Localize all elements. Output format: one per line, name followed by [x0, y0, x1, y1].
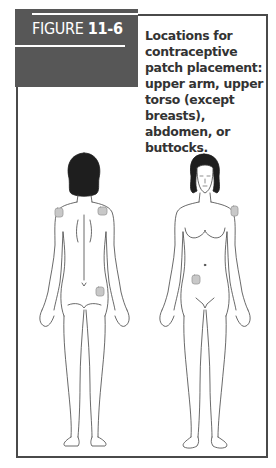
front-feet	[183, 437, 227, 448]
back-feet	[64, 437, 106, 446]
back-spine	[77, 215, 92, 286]
front-pelvis	[196, 298, 214, 308]
back-waist-hips	[61, 232, 108, 316]
back-torso-outline	[42, 202, 127, 310]
front-hands	[160, 310, 250, 326]
front-navel	[204, 264, 206, 266]
back-legs	[64, 310, 105, 437]
patch-front-abdomen	[192, 275, 200, 284]
back-hair	[68, 153, 100, 196]
front-waist-hips	[181, 232, 229, 316]
patch-back-upper-torso	[98, 207, 107, 215]
back-buttocks	[68, 304, 101, 308]
patch-front-upper-arm	[231, 206, 238, 216]
back-view-figure	[40, 153, 129, 446]
back-hands	[40, 310, 129, 326]
back-inner-arm	[54, 232, 115, 310]
front-inner-arm	[174, 232, 236, 310]
patch-back-upper-arm	[55, 208, 63, 217]
front-torso-outline	[162, 202, 248, 310]
body-illustrations	[0, 0, 276, 468]
front-view-figure	[160, 154, 250, 448]
front-breasts	[185, 228, 225, 238]
front-legs	[184, 310, 226, 437]
patch-back-buttock	[96, 287, 104, 296]
front-neck	[199, 193, 211, 202]
